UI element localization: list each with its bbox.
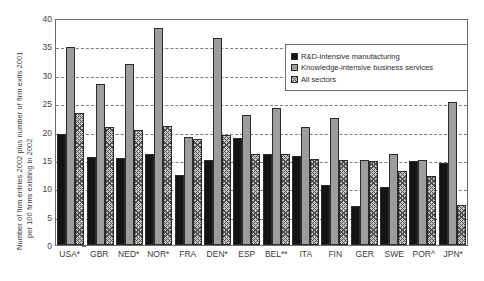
bar — [116, 158, 125, 245]
bar — [134, 130, 143, 245]
bar — [398, 171, 407, 245]
legend-item-knowledge-intensive-business-services: Knowledge-intensive business services — [291, 63, 462, 72]
bar-group — [204, 20, 231, 245]
bar — [409, 161, 418, 245]
y-tick-label-25: 25 — [32, 99, 52, 109]
y-tick-label-35: 35 — [32, 42, 52, 52]
bar — [310, 159, 319, 245]
bar — [96, 84, 105, 245]
x-tick-label: ESP — [232, 249, 261, 265]
bar — [105, 127, 114, 245]
x-tick-label: FRA — [173, 249, 202, 265]
y-tick-label-20: 20 — [32, 128, 52, 138]
legend-swatch-icon-series-0 — [291, 53, 298, 60]
y-tick-label-30: 30 — [32, 71, 52, 81]
x-tick-label: GER — [350, 249, 379, 265]
bar-group — [145, 20, 172, 245]
x-tick-label: POR^ — [409, 249, 438, 265]
x-tick-label: NED* — [114, 249, 143, 265]
y-axis-title-line-1: Number of firm entries 2002 plus number … — [15, 52, 24, 250]
legend-label-series-1: Knowledge-intensive business services — [301, 63, 433, 72]
y-tick-label-0: 0 — [32, 241, 52, 251]
x-tick-label: FIN — [321, 249, 350, 265]
bar — [87, 157, 96, 245]
bar — [233, 138, 242, 245]
bar — [448, 102, 457, 245]
chart-legend: R&D-intensive manufacturing Knowledge-in… — [285, 44, 468, 91]
bar — [418, 160, 427, 245]
bar — [369, 161, 378, 245]
bar — [339, 160, 348, 245]
bar — [154, 28, 163, 245]
y-axis-tick-labels: 0510152025303540 — [30, 19, 52, 246]
bar — [351, 206, 360, 245]
legend-swatch-icon-series-2 — [291, 76, 298, 83]
bar — [184, 137, 193, 245]
chart-page: Number of firm entries 2002 plus number … — [0, 0, 484, 281]
bar — [427, 176, 436, 245]
bar — [292, 156, 301, 245]
y-tick-label-40: 40 — [32, 14, 52, 24]
bar — [163, 126, 172, 245]
legend-item-rd-intensive-manufacturing: R&D-intensive manufacturing — [291, 52, 462, 61]
x-tick-label: SWE — [380, 249, 409, 265]
bar — [389, 154, 398, 245]
bar — [193, 139, 202, 245]
bar-group — [116, 20, 143, 245]
y-tick-label-10: 10 — [32, 184, 52, 194]
legend-item-all-sectors: All sectors — [291, 75, 462, 84]
bar — [380, 187, 389, 245]
bar — [125, 64, 134, 245]
y-tick-mark-0 — [82, 246, 86, 247]
bar-group — [175, 20, 202, 245]
x-tick-label: USA* — [55, 249, 84, 265]
bar — [439, 163, 448, 245]
x-axis-tick-labels: USA*GBRNED*NOR*FRADEN*ESPBEL**ITAFINGERS… — [55, 249, 468, 265]
bar — [281, 154, 290, 245]
bar — [457, 205, 466, 245]
y-tick-label-15: 15 — [32, 156, 52, 166]
bar — [321, 185, 330, 245]
bar — [242, 115, 251, 245]
x-tick-label: BEL** — [262, 249, 291, 265]
bar — [272, 108, 281, 245]
bar — [301, 127, 310, 245]
bar — [66, 47, 75, 245]
bar-group — [87, 20, 114, 245]
x-tick-label: GBR — [85, 249, 114, 265]
y-tick-label-5: 5 — [32, 213, 52, 223]
bar — [204, 160, 213, 245]
bar — [251, 154, 260, 245]
bar-group — [233, 20, 260, 245]
x-tick-label: JPN* — [439, 249, 468, 265]
bar — [360, 160, 369, 245]
x-tick-label: DEN* — [203, 249, 232, 265]
legend-label-series-2: All sectors — [301, 75, 336, 84]
bar — [57, 134, 66, 245]
bar — [145, 154, 154, 245]
bar — [75, 113, 84, 245]
legend-label-series-0: R&D-intensive manufacturing — [301, 52, 400, 61]
plot-area: R&D-intensive manufacturing Knowledge-in… — [55, 19, 468, 246]
bar-group — [57, 20, 84, 245]
x-tick-label: ITA — [291, 249, 320, 265]
x-tick-label: NOR* — [144, 249, 173, 265]
bar — [263, 154, 272, 245]
bar — [213, 38, 222, 245]
bar — [175, 175, 184, 245]
bar — [330, 118, 339, 245]
legend-swatch-icon-series-1 — [291, 64, 298, 71]
bar — [222, 135, 231, 245]
